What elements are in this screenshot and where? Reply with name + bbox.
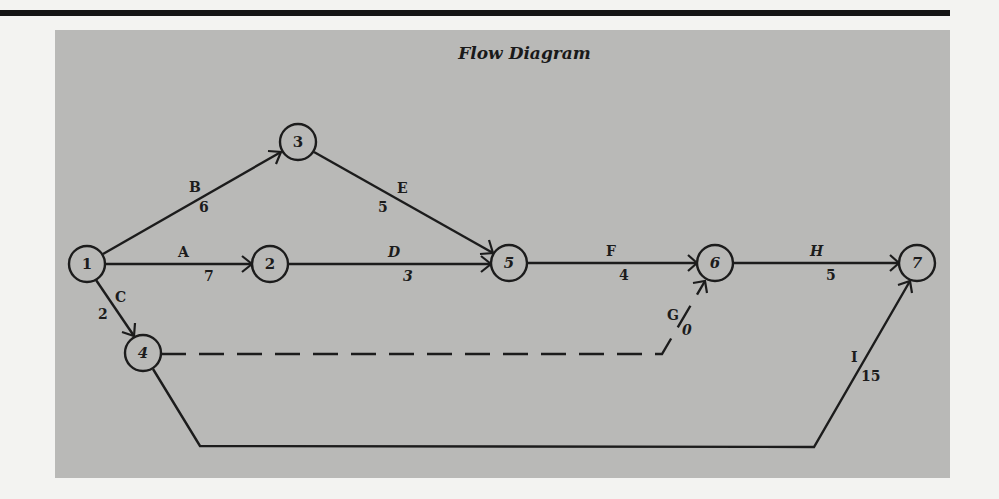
edge-a-activity: A: [177, 244, 190, 260]
node-1-label: 1: [82, 255, 92, 273]
edge-d-duration: 3: [403, 268, 413, 284]
edge-a: A 7: [105, 244, 252, 284]
edge-g-duration: 0: [682, 322, 692, 338]
edge-d-activity: D: [387, 244, 401, 260]
node-1: 1: [69, 246, 105, 282]
node-4-label: 4: [138, 344, 148, 362]
node-2-label: 2: [265, 255, 275, 273]
node-5: 5: [491, 245, 527, 281]
edge-i: I 15: [153, 281, 912, 447]
edge-b-duration: 6: [199, 199, 209, 215]
edge-f: F 4: [527, 243, 697, 283]
node-3-label: 3: [293, 133, 303, 151]
node-2: 2: [252, 246, 288, 282]
node-7: 7: [899, 245, 935, 281]
edges: A 7 B 6 C 2 D 3 E 5: [96, 151, 912, 447]
node-5-label: 5: [504, 254, 514, 272]
edge-c-activity: C: [115, 289, 126, 305]
node-6: 6: [697, 245, 733, 281]
edge-c: C 2: [96, 280, 135, 336]
edge-b: B 6: [103, 151, 281, 254]
edge-g-activity: G: [667, 307, 679, 323]
node-3: 3: [280, 124, 316, 160]
edge-h-duration: 5: [826, 267, 836, 283]
edge-g: G 0: [161, 281, 707, 354]
edge-e: E 5: [314, 152, 493, 254]
edge-i-activity: I: [851, 349, 858, 365]
node-6-label: 6: [710, 254, 721, 272]
node-7-label: 7: [912, 254, 923, 272]
nodes: 1 2 3 4 5 6 7: [69, 124, 935, 371]
edge-f-duration: 4: [619, 267, 629, 283]
edge-e-duration: 5: [378, 199, 388, 215]
edge-f-activity: F: [606, 243, 616, 259]
flow-diagram: A 7 B 6 C 2 D 3 E 5: [0, 0, 999, 499]
edge-e-activity: E: [397, 180, 408, 196]
edge-h-activity: H: [809, 243, 824, 259]
edge-h: H 5: [733, 243, 899, 283]
edge-d: D 3: [288, 244, 491, 284]
edge-a-duration: 7: [204, 268, 214, 284]
edge-c-duration: 2: [98, 306, 108, 322]
node-4: 4: [125, 335, 161, 371]
edge-i-duration: 15: [861, 368, 880, 384]
edge-b-activity: B: [189, 179, 201, 195]
